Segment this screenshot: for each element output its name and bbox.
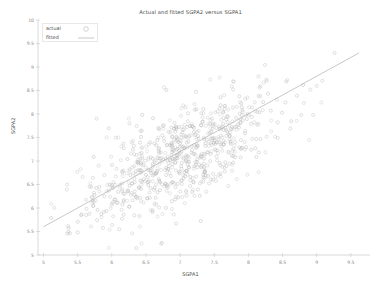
chart-legend: actual fitted (42, 23, 98, 42)
svg-text:9: 9 (315, 260, 318, 265)
svg-text:6.5: 6.5 (142, 260, 149, 265)
svg-text:9.5: 9.5 (27, 41, 34, 46)
y-axis-label: SGPA2 (10, 120, 16, 134)
legend-label-actual: actual (46, 25, 61, 33)
svg-text:8: 8 (31, 112, 34, 117)
svg-text:8.5: 8.5 (27, 88, 34, 93)
scatter-plot-canvas: 55.566.577.588.599.51055.566.577.588.599… (0, 0, 381, 289)
svg-text:5.5: 5.5 (74, 260, 81, 265)
svg-text:8.5: 8.5 (279, 260, 286, 265)
svg-text:10: 10 (28, 18, 34, 23)
svg-text:6: 6 (110, 260, 113, 265)
scatter-points-layer (50, 51, 337, 249)
chart-figure: Actual and fitted SGPA2 versus SGPA1 55.… (0, 0, 381, 289)
legend-label-fitted: fitted (46, 34, 59, 42)
figure-caption (6, 283, 246, 289)
svg-text:7: 7 (31, 159, 34, 164)
x-axis-label: SGPA1 (0, 271, 381, 277)
line-swatch-icon (77, 34, 95, 42)
svg-text:9: 9 (31, 65, 34, 70)
svg-text:5: 5 (42, 260, 45, 265)
svg-text:5: 5 (31, 253, 34, 258)
svg-text:6.5: 6.5 (27, 182, 34, 187)
legend-entry-actual: actual (43, 25, 97, 33)
svg-text:8: 8 (247, 260, 250, 265)
svg-text:7.5: 7.5 (211, 260, 218, 265)
legend-entry-fitted: fitted (43, 34, 97, 42)
svg-text:7: 7 (179, 260, 182, 265)
svg-text:5.5: 5.5 (27, 229, 34, 234)
svg-text:7.5: 7.5 (27, 135, 34, 140)
fitted-line-layer (43, 53, 359, 227)
svg-text:9.5: 9.5 (347, 260, 354, 265)
svg-text:6: 6 (31, 206, 34, 211)
open-circle-marker-icon (77, 25, 95, 33)
